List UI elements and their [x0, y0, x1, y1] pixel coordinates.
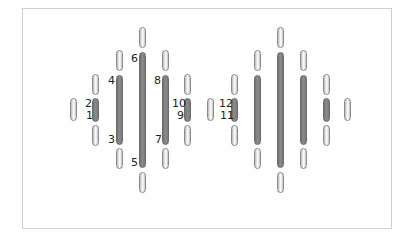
pill-segment: [162, 50, 169, 71]
pill-segment: [184, 74, 191, 95]
pill-segment: [300, 50, 307, 71]
label-3: 3: [108, 134, 115, 145]
pill-segment: [139, 172, 146, 193]
label-4: 4: [108, 75, 115, 86]
pill-segment: [323, 125, 330, 146]
pill-segment: [92, 125, 99, 146]
bar-segment: [323, 98, 330, 122]
label-1: 1: [86, 110, 93, 121]
pill-segment: [116, 50, 123, 71]
pill-segment: [323, 74, 330, 95]
pill-segment: [254, 148, 261, 169]
bar-segment: [300, 75, 307, 145]
label-12: 12: [219, 98, 233, 109]
pill-segment: [231, 74, 238, 95]
label-7: 7: [155, 134, 162, 145]
bar-segment: [139, 52, 146, 168]
pill-segment: [277, 27, 284, 48]
pill-segment: [277, 172, 284, 193]
pill-segment: [300, 148, 307, 169]
label-11: 11: [220, 110, 234, 121]
bar-segment: [92, 98, 99, 122]
pill-segment: [344, 98, 351, 121]
pill-segment: [70, 98, 77, 121]
bar-segment: [116, 75, 123, 145]
label-6: 6: [131, 53, 138, 64]
pill-segment: [162, 148, 169, 169]
pill-segment: [92, 74, 99, 95]
bar-segment: [162, 75, 169, 145]
bar-segment: [254, 75, 261, 145]
bar-segment: [277, 52, 284, 168]
pill-segment: [116, 148, 123, 169]
pill-segment: [184, 125, 191, 146]
label-9: 9: [177, 110, 184, 121]
label-10: 10: [172, 98, 186, 109]
pill-segment: [254, 50, 261, 71]
pill-segment: [207, 98, 214, 121]
pill-segment: [231, 125, 238, 146]
label-2: 2: [85, 98, 92, 109]
label-5: 5: [131, 157, 138, 168]
label-8: 8: [154, 75, 161, 86]
pill-segment: [139, 27, 146, 48]
